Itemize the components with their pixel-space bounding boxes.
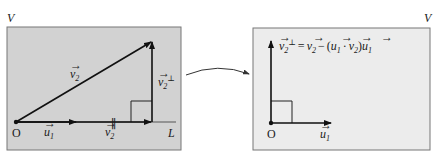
svg-text:∥: ∥	[111, 117, 117, 131]
orthogonal-projection-diagram: V O L u1 → v2 → ∥ v2 →	[0, 0, 438, 161]
svg-text:→: →	[44, 116, 56, 130]
svg-text:→: →	[381, 30, 393, 44]
right-panel: V O u1 → v2⊥=v2−(u1·v2)u1 → → → → →	[253, 11, 433, 150]
space-label-right: V	[424, 11, 433, 25]
svg-text:→: →	[313, 30, 325, 44]
origin-dot-left	[14, 120, 18, 124]
svg-text:→: →	[341, 30, 353, 44]
left-panel-background	[7, 27, 181, 150]
curved-arrow-icon	[186, 68, 249, 75]
origin-label-left: O	[12, 126, 21, 140]
line-label-L: L	[167, 126, 175, 140]
svg-text:→: →	[70, 58, 82, 72]
origin-dot-right	[269, 121, 273, 125]
svg-text:→: →	[361, 30, 373, 44]
space-label-left: V	[7, 11, 16, 25]
svg-text:→: →	[279, 30, 291, 44]
svg-text:→: →	[158, 66, 170, 80]
left-panel: V O L u1 → v2 → ∥ v2 →	[7, 11, 181, 150]
svg-text:→: →	[320, 118, 332, 132]
origin-label-right: O	[267, 127, 276, 141]
